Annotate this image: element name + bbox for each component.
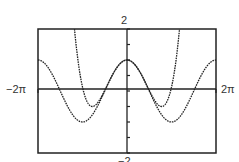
y-min-label: −2 [118, 156, 131, 162]
y-max-label: 2 [121, 15, 127, 26]
x-max-label: 2π [221, 84, 235, 95]
x-min-label: −2π [6, 84, 26, 95]
chart-canvas [0, 0, 239, 162]
